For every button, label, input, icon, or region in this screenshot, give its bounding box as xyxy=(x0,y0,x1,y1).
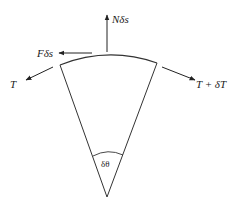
angle-arc xyxy=(93,152,123,156)
tension-left-arrow xyxy=(26,67,53,80)
angle-label: δθ xyxy=(101,159,110,169)
sector-left-edge xyxy=(60,65,107,197)
friction-force-label: Fδs xyxy=(36,47,53,59)
normal-force-label: Nδs xyxy=(111,13,129,25)
tension-right-arrow xyxy=(162,67,195,80)
tension-left-label: T xyxy=(10,78,17,90)
belt-arc xyxy=(60,55,157,65)
sector-right-edge xyxy=(107,63,157,197)
tension-right-label: T + δT xyxy=(196,78,227,90)
belt-element-diagram: Nδs Fδs T T + δT δθ xyxy=(0,0,244,209)
